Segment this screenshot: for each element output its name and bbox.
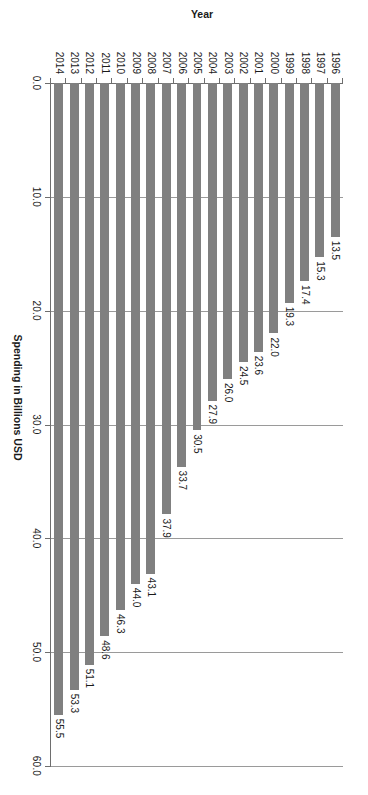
value-tick-label: 0.0 xyxy=(31,53,42,113)
category-tick xyxy=(265,78,266,83)
category-tick xyxy=(173,78,174,83)
bar xyxy=(100,83,109,636)
category-tick-label: 2013 xyxy=(69,40,80,74)
bar-value-label: 33.7 xyxy=(177,471,188,490)
bar-value-label: 46.3 xyxy=(115,614,126,633)
bar-chart-figure: 0.010.020.030.040.050.060.0 13.515.317.4… xyxy=(0,0,368,795)
bar xyxy=(146,83,155,574)
category-tick xyxy=(234,78,235,83)
bar-value-label: 19.3 xyxy=(284,307,295,326)
category-tick xyxy=(111,78,112,83)
bar xyxy=(208,83,217,401)
bar xyxy=(177,83,186,467)
bar xyxy=(131,83,140,584)
category-tick xyxy=(127,78,128,83)
value-tick-label: 40.0 xyxy=(31,508,42,568)
value-gridline xyxy=(51,766,343,767)
bar xyxy=(254,83,263,352)
category-tick xyxy=(250,78,251,83)
category-tick-label: 1999 xyxy=(284,40,295,74)
category-tick-label: 2011 xyxy=(100,40,111,74)
value-tick-label: 10.0 xyxy=(31,167,42,227)
bar-value-label: 30.5 xyxy=(192,434,203,453)
category-tick xyxy=(311,78,312,83)
rotated-chart-stage: 0.010.020.030.040.050.060.0 13.515.317.4… xyxy=(0,0,368,795)
bar-value-label: 37.9 xyxy=(161,518,172,537)
bar xyxy=(116,83,125,610)
bar xyxy=(269,83,278,333)
bar-value-label: 23.6 xyxy=(253,356,264,375)
bar-value-label: 26.0 xyxy=(223,383,234,402)
category-tick xyxy=(188,78,189,83)
category-axis-title: Year xyxy=(92,8,312,20)
bar xyxy=(331,83,340,237)
category-tick xyxy=(50,78,51,83)
category-tick xyxy=(219,78,220,83)
category-tick-label: 2010 xyxy=(115,40,126,74)
bar-value-label: 13.5 xyxy=(330,241,341,260)
category-tick xyxy=(81,78,82,83)
bar-value-label: 43.1 xyxy=(146,578,157,597)
value-gridline xyxy=(51,538,343,539)
bar-value-label: 53.3 xyxy=(69,694,80,713)
category-tick-label: 2005 xyxy=(192,40,203,74)
bar xyxy=(300,83,309,281)
category-tick xyxy=(96,78,97,83)
category-tick-label: 2001 xyxy=(253,40,264,74)
category-tick-label: 1998 xyxy=(300,40,311,74)
bar xyxy=(162,83,171,514)
category-tick-label: 2003 xyxy=(223,40,234,74)
bar-value-label: 51.1 xyxy=(84,669,95,688)
category-tick-label: 2012 xyxy=(84,40,95,74)
category-tick xyxy=(142,78,143,83)
category-tick-label: 2014 xyxy=(54,40,65,74)
category-tick xyxy=(342,78,343,83)
category-tick xyxy=(65,78,66,83)
bar-value-label: 22.0 xyxy=(269,337,280,356)
category-tick-label: 2009 xyxy=(131,40,142,74)
value-axis-title: Spending in Billions USD xyxy=(12,0,24,795)
category-tick-label: 2007 xyxy=(161,40,172,74)
value-gridline xyxy=(51,652,343,653)
bar-value-label: 24.5 xyxy=(238,366,249,385)
category-tick xyxy=(281,78,282,83)
category-tick-label: 2008 xyxy=(146,40,157,74)
bar xyxy=(223,83,232,379)
category-tick xyxy=(296,78,297,83)
bar xyxy=(54,83,63,715)
category-tick-label: 2002 xyxy=(238,40,249,74)
value-tick-label: 20.0 xyxy=(31,281,42,341)
bar-value-label: 15.3 xyxy=(315,261,326,280)
bar xyxy=(70,83,79,690)
category-tick-label: 2006 xyxy=(177,40,188,74)
bar xyxy=(85,83,94,665)
category-tick-label: 2000 xyxy=(269,40,280,74)
category-tick-label: 2004 xyxy=(207,40,218,74)
bar-value-label: 44.0 xyxy=(131,588,142,607)
bar-value-label: 55.5 xyxy=(54,719,65,738)
category-tick xyxy=(327,78,328,83)
value-tick-label: 50.0 xyxy=(31,622,42,682)
category-tick xyxy=(204,78,205,83)
bar-value-label: 48.6 xyxy=(100,640,111,659)
bar xyxy=(239,83,248,362)
bar-value-label: 27.9 xyxy=(207,405,218,424)
bar xyxy=(193,83,202,430)
category-tick-label: 1996 xyxy=(330,40,341,74)
value-tick-label: 60.0 xyxy=(31,736,42,795)
category-tick xyxy=(158,78,159,83)
bar xyxy=(316,83,325,257)
category-tick-label: 1997 xyxy=(315,40,326,74)
value-tick-label: 30.0 xyxy=(31,395,42,455)
bar-value-label: 17.4 xyxy=(300,285,311,304)
bar xyxy=(285,83,294,303)
plot-area: 13.515.317.419.322.023.624.526.027.930.5… xyxy=(51,83,343,766)
